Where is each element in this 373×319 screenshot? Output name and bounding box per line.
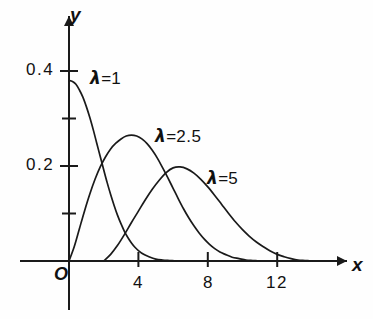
lambda-value: 1 (111, 69, 121, 88)
series-annotation-lambda-5: λ=5 (207, 170, 238, 187)
curve-lambda-1 (69, 81, 177, 262)
origin-label: O (54, 265, 68, 283)
x-tick-label-12: 12 (266, 274, 288, 291)
y-tick-label-0.4: 0.4 (26, 61, 54, 78)
lambda-symbol: λ (207, 168, 218, 188)
lambda-symbol: λ (155, 126, 166, 146)
series-annotation-lambda-2.5: λ=2.5 (155, 128, 201, 145)
equals-symbol: = (101, 69, 111, 88)
series-annotation-lambda-1: λ=1 (90, 70, 121, 87)
figure-container: y x O 0.4 0.2 4 8 12 λ=1 λ=2.5 λ=5 (0, 0, 373, 319)
y-tick-label-0.2: 0.2 (26, 156, 54, 173)
equals-symbol: = (166, 127, 176, 146)
lambda-value: 2.5 (176, 127, 201, 146)
x-axis-arrowhead (337, 256, 347, 266)
lambda-value: 5 (228, 169, 238, 188)
equals-symbol: = (218, 169, 228, 188)
axes-layer (20, 16, 347, 310)
x-axis-label: x (352, 255, 363, 274)
lambda-symbol: λ (90, 68, 101, 88)
x-tick-label-8: 8 (203, 274, 214, 291)
x-tick-label-4: 4 (133, 274, 144, 291)
y-axis-label: y (70, 5, 81, 24)
curve-lambda-2.5 (69, 135, 260, 261)
curves-layer (69, 81, 312, 262)
